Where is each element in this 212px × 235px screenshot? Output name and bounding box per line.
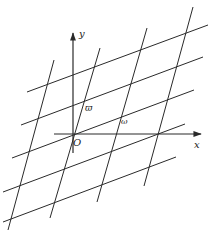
x-axis-label: x [194,139,200,150]
shallow-line-5 [3,157,176,222]
y-axis-label: y [78,28,85,39]
shallow-line-3 [12,90,194,158]
shallow-line-2 [21,57,203,125]
steep-line-4 [144,7,193,186]
diagram-svg: y x O ϖ ω [0,0,212,235]
steep-line-2 [50,48,100,218]
shallow-line-1 [27,25,208,92]
shallow-grid-lines [3,25,208,222]
varpi-label: ϖ [85,103,93,113]
steep-line-3 [97,28,147,202]
origin-label: O [73,137,81,148]
coordinate-axes [54,33,201,153]
omega-label: ω [121,117,128,126]
lattice-diagram: y x O ϖ ω [0,0,212,235]
